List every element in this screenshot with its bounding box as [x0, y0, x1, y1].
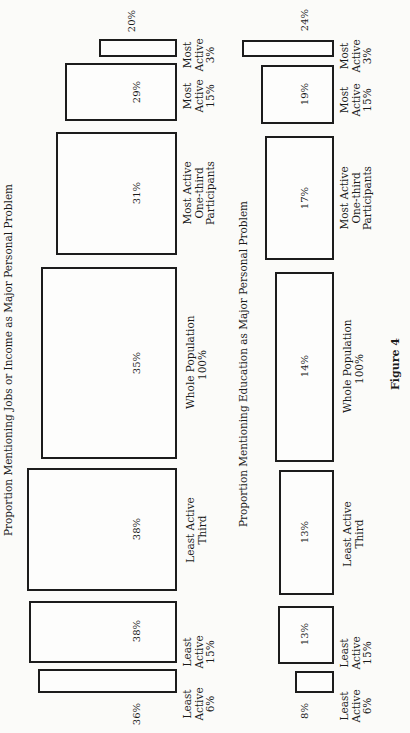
chart2-value-most-active-15: 19%	[299, 79, 311, 109]
chart1-label-least-active-15: Least Active 15%	[182, 622, 218, 682]
chart1-value-most-active-15: 29%	[131, 77, 143, 107]
chart2-bar-most-active-15	[261, 65, 334, 124]
chart1-bar-most-active-third	[56, 132, 177, 255]
chart1-value-whole-population: 35%	[131, 348, 143, 378]
chart2-value-least-active-third: 13%	[299, 517, 311, 547]
chart1-label-most-active-15: Most Active 15%	[182, 66, 218, 126]
chart2-label-most-active-15: Most Active 15%	[339, 70, 375, 130]
chart2-bar-most-active-3	[242, 40, 334, 57]
chart2-value-least-active-15: 13%	[299, 619, 311, 649]
chart1-label-least-active-third: Least Active Third	[185, 497, 209, 563]
chart2-label-least-active-third: Least Active Third	[342, 501, 366, 567]
chart2-value-most-active-third: 17%	[299, 183, 311, 213]
chart2-label-whole-population: Whole Population 100%	[342, 325, 366, 413]
chart1-label-most-active-third: Most Active One-third Participants	[182, 150, 218, 236]
chart2-label-least-active-6: Least Active 6%	[339, 676, 375, 733]
figure-caption: Figure 4	[390, 334, 404, 394]
chart1-bar-least-active-15	[29, 601, 177, 663]
chart1-value-most-active-third: 31%	[131, 178, 143, 208]
chart1-bar-most-active-15	[65, 63, 177, 121]
chart2-value-whole-population: 14%	[299, 351, 311, 381]
chart1-value-least-active-15: 38%	[131, 616, 143, 646]
chart1-value-least-active-6: 36%	[131, 699, 143, 729]
chart2-label-most-active-third: Most Active One-third Participants	[339, 154, 375, 242]
chart2-title: Proportion Mentioning Education as Major…	[238, 194, 252, 534]
chart1-label-least-active-6: Least Active 6%	[182, 674, 218, 733]
chart1-bar-most-active-3	[99, 39, 177, 57]
chart1-bar-least-active-third	[27, 468, 177, 591]
chart2-value-most-active-3: 24%	[299, 5, 311, 35]
chart2-value-least-active-6: 8%	[299, 696, 311, 726]
chart1-value-most-active-3: 20%	[126, 6, 138, 36]
chart1-bar-whole-population	[41, 267, 177, 459]
chart2-label-least-active-15: Least Active 15%	[339, 623, 375, 683]
chart1-title: Proportion Mentioning Jobs or Income as …	[3, 180, 17, 540]
chart1-value-least-active-third: 38%	[131, 514, 143, 544]
chart1-bar-least-active-6	[38, 669, 177, 693]
chart2-bar-least-active-6	[295, 671, 334, 693]
chart1-label-whole-population: Whole Population 100%	[185, 321, 209, 409]
